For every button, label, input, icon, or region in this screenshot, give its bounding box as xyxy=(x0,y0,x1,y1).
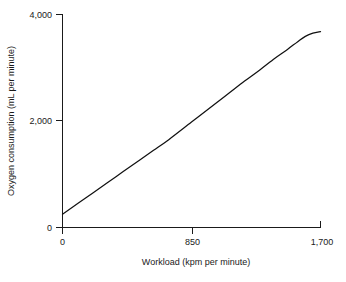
chart-screenshot: 4,000 2,000 0 0 850 1,700 Workload (kpm … xyxy=(0,0,346,282)
data-series-line xyxy=(63,32,321,215)
y-tick-label-4000: 4,000 xyxy=(29,10,52,20)
x-tick-label-850: 850 xyxy=(185,237,200,247)
y-tick-label-2000: 2,000 xyxy=(29,116,52,126)
y-tick-label-0: 0 xyxy=(47,223,52,233)
oxygen-consumption-line-chart: 4,000 2,000 0 0 850 1,700 Workload (kpm … xyxy=(0,0,346,282)
x-axis-title: Workload (kpm per minute) xyxy=(142,257,250,267)
x-tick-label-0: 0 xyxy=(60,237,65,247)
x-tick-label-1700: 1,700 xyxy=(311,237,334,247)
y-axis-title: Oxygen consumption (mL per minute) xyxy=(6,46,16,196)
